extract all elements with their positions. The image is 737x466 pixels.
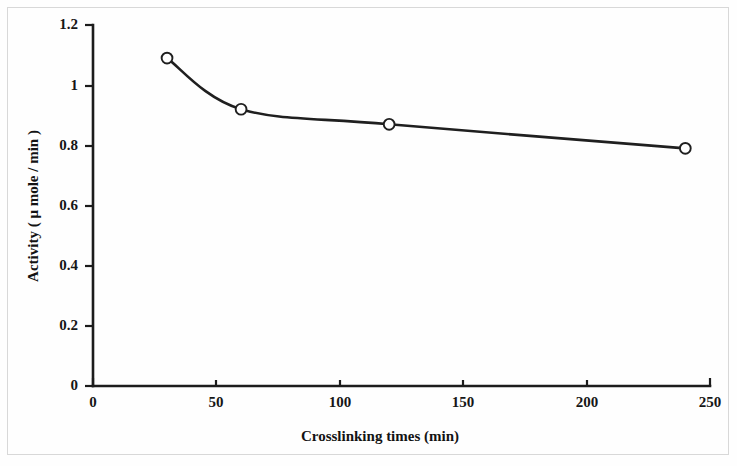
series-markers-activity (162, 53, 691, 154)
x-tick-label-50: 50 (209, 394, 224, 410)
x-tick-label-250: 250 (699, 394, 722, 410)
line-chart-canvas: 1.2 1 0.8 0.6 0.4 0.2 0 0 50 100 150 200… (0, 0, 737, 466)
chart-figure: 1.2 1 0.8 0.6 0.4 0.2 0 0 50 100 150 200… (0, 0, 737, 466)
series-line-activity (167, 58, 685, 148)
y-tick-label-0.6: 0.6 (59, 197, 78, 213)
data-point-marker (162, 53, 173, 64)
y-tick-label-1.2: 1.2 (59, 16, 78, 32)
x-tick-label-200: 200 (576, 394, 599, 410)
y-tick-label-1: 1 (71, 77, 79, 93)
x-tick-label-0: 0 (89, 394, 97, 410)
data-point-marker (680, 143, 691, 154)
x-tick-label-150: 150 (452, 394, 475, 410)
y-tick-label-0: 0 (71, 377, 79, 393)
data-point-marker (384, 119, 395, 130)
y-tick-label-0.8: 0.8 (59, 137, 78, 153)
series-activity (162, 53, 691, 154)
data-point-marker (236, 104, 247, 115)
y-tick-label-0.4: 0.4 (59, 257, 78, 273)
x-axis-title: Crosslinking times (min) (301, 428, 459, 445)
y-axis-title: Activity ( μ mole / min ) (25, 130, 42, 282)
y-tick-label-0.2: 0.2 (59, 317, 78, 333)
x-tick-label-100: 100 (329, 394, 352, 410)
